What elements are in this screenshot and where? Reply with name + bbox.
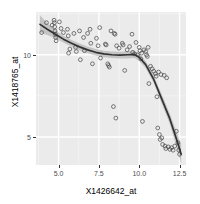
x-tick-label: 12.5 (173, 170, 187, 177)
x-tick-mark (59, 165, 60, 168)
loess-trend-line (40, 24, 181, 154)
x-tick-mark (139, 165, 140, 168)
x-tick-mark (99, 165, 100, 168)
plot-canvas (36, 12, 186, 165)
x-tick-mark (180, 165, 181, 168)
y-tick-mark (33, 137, 36, 138)
plot-panel (36, 12, 186, 165)
y-tick-mark (33, 55, 36, 56)
y-axis-title: X1418765_at (10, 6, 20, 159)
x-tick-label: 5.0 (54, 170, 64, 177)
x-axis-title: X1426642_at (36, 186, 186, 196)
x-tick-label: 10.0 (132, 170, 146, 177)
scatter-plot-figure: 5.07.510.012.5510 X1426642_at X1418765_a… (0, 0, 200, 204)
x-tick-label: 7.5 (94, 170, 104, 177)
